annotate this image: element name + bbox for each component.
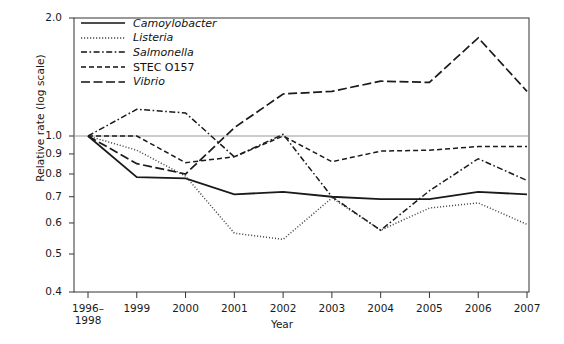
legend-swatch-solid-icon: [80, 18, 126, 28]
legend-swatch-dashed-short-icon: [80, 62, 126, 72]
legend-swatch-dotted-icon: [80, 33, 126, 43]
y-tick-label: 0.9: [22, 148, 62, 159]
y-axis-title: Relative rate (log scale): [34, 18, 46, 218]
y-tick-label: 0.8: [22, 168, 62, 179]
y-axis-tick-marks: [69, 18, 74, 292]
relative-rate-line-chart: Relative rate (log scale) Year 2.01.00.9…: [0, 0, 564, 344]
legend-label-listeria: Listeria: [133, 31, 173, 44]
legend-swatch-dashed-long-icon: [80, 77, 126, 87]
legend-swatch-dashdot-icon: [80, 47, 126, 57]
x-axis-tick-marks: [88, 292, 527, 298]
legend-label-vibrio: Vibrio: [133, 75, 165, 88]
y-tick-label: 0.6: [22, 217, 62, 228]
legend-label-camoylobacter: Camoylobacter: [133, 17, 217, 30]
x-tick-label: 2007: [497, 302, 557, 314]
y-tick-label: 0.7: [22, 191, 62, 202]
y-tick-label: 0.5: [22, 248, 62, 259]
legend: Camoylobacter Listeria Salmonella STEC O…: [78, 14, 221, 91]
legend-label-salmonella: Salmonella: [133, 46, 194, 59]
y-tick-label: 0.4: [22, 286, 62, 297]
y-tick-label: 1.0: [22, 130, 62, 141]
legend-label-stec-o157: STEC O157: [133, 61, 194, 74]
y-tick-label: 2.0: [22, 12, 62, 23]
legend-item-vibrio: Vibrio: [80, 74, 217, 89]
legend-item-listeria: Listeria: [80, 31, 217, 46]
legend-item-salmonella: Salmonella: [80, 45, 217, 60]
legend-item-stec-o157: STEC O157: [80, 60, 217, 75]
legend-item-camoylobacter: Camoylobacter: [80, 16, 217, 31]
